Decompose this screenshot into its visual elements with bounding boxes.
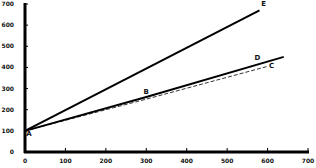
point-label-c: C	[269, 62, 274, 70]
x-tick-label: 600	[261, 157, 274, 164]
point-label-d: D	[255, 54, 261, 62]
series-line-a-c	[25, 66, 268, 130]
series-line-a-d	[25, 57, 284, 131]
series-line-a-e	[25, 10, 259, 131]
y-tick-label: 100	[1, 127, 14, 134]
x-tick-label: 400	[180, 157, 193, 164]
y-tick-label: 200	[1, 106, 14, 113]
x-tick-label: 300	[140, 157, 153, 164]
y-tick-label: 700	[1, 0, 14, 7]
point-label-b: B	[144, 88, 149, 96]
x-tick-label: 0	[23, 157, 27, 164]
x-tick-label: 500	[221, 157, 234, 164]
y-tick-label: 0	[10, 148, 14, 155]
point-label-e: E	[261, 0, 266, 8]
x-tick-label: 700	[302, 157, 315, 164]
x-axis-ticks: 0100200300400500600700	[23, 148, 314, 164]
y-tick-label: 500	[1, 42, 14, 49]
y-tick-label: 300	[1, 85, 14, 92]
point-label-a: A	[26, 130, 32, 138]
x-tick-label: 100	[59, 157, 72, 164]
y-tick-label: 400	[1, 63, 14, 70]
y-tick-label: 600	[1, 21, 14, 28]
series-lines	[25, 10, 284, 131]
x-tick-label: 200	[100, 157, 113, 164]
line-chart: 0100200300400500600700 01002003004005006…	[0, 0, 316, 168]
